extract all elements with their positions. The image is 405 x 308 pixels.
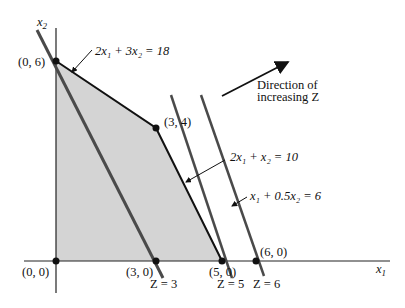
vertex-3-0 — [153, 258, 160, 265]
leader-constraint-2 — [186, 160, 225, 182]
vertex-5-0 — [219, 258, 226, 265]
label-point-0-0: (0, 0) — [22, 265, 49, 279]
vertex-6-0 — [253, 258, 260, 265]
vertex-0-0 — [53, 258, 60, 265]
vertex-3-4 — [153, 125, 160, 132]
x1-axis-label: x1 — [375, 262, 386, 278]
label-z6: Z = 6 — [253, 277, 280, 291]
label-z3: Z = 3 — [150, 277, 177, 291]
label-point-6-0: (6, 0) — [260, 245, 287, 259]
label-z5: Z = 5 — [217, 277, 244, 291]
label-constraint-2: 2x₁ + x₂ = 10 — [230, 150, 299, 164]
label-point-0-6: (0, 6) — [18, 55, 45, 69]
label-constraint-1: 2x₁ + 3x₂ = 18 — [95, 44, 170, 58]
lp-diagram: x2 x1 (0, 6) (3, 4) (0, 0) (3, 0) (5, 0)… — [0, 0, 405, 308]
label-constraint-3: x₁ + 0.5x₂ = 6 — [249, 189, 322, 203]
label-point-3-4: (3, 4) — [164, 115, 191, 129]
direction-text-line2: increasing Z — [257, 90, 319, 104]
x2-axis-label: x2 — [36, 15, 48, 31]
leader-constraint-1 — [72, 50, 92, 72]
vertex-0-6 — [53, 58, 60, 65]
